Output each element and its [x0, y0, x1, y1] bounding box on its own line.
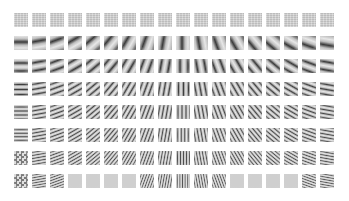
filter-patch [50, 36, 64, 50]
gaussian-envelope [284, 174, 298, 188]
filter-patch [230, 174, 244, 188]
gaussian-envelope [248, 128, 262, 142]
filter-patch [140, 105, 154, 119]
gaussian-envelope [230, 174, 244, 188]
gaussian-envelope [248, 105, 262, 119]
filter-patch [68, 13, 82, 27]
gaussian-envelope [212, 128, 226, 142]
filter-patch [230, 151, 244, 165]
filter-patch [302, 59, 316, 73]
filter-patch [266, 59, 280, 73]
filter-patch [104, 13, 118, 27]
filter-patch [266, 128, 280, 142]
noise-texture [266, 13, 280, 27]
filter-patch [176, 128, 190, 142]
filter-patch [248, 36, 262, 50]
filter-patch [122, 36, 136, 50]
filter-patch [284, 36, 298, 50]
gaussian-envelope [50, 36, 64, 50]
filter-patch [122, 59, 136, 73]
gaussian-envelope [140, 82, 154, 96]
filter-patch [68, 128, 82, 142]
gaussian-envelope [122, 82, 136, 96]
gaussian-envelope [86, 151, 100, 165]
gaussian-envelope [32, 36, 46, 50]
gaussian-envelope [86, 82, 100, 96]
filter-patch [248, 59, 262, 73]
filter-patch [284, 82, 298, 96]
gaussian-envelope [230, 82, 244, 96]
filter-patch [194, 105, 208, 119]
filter-row-5 [14, 105, 334, 119]
filter-patch [68, 36, 82, 50]
gaussian-envelope [176, 174, 190, 188]
filter-patch [68, 82, 82, 96]
gaussian-envelope [104, 128, 118, 142]
gaussian-envelope [32, 151, 46, 165]
filter-patch [68, 151, 82, 165]
filter-patch [302, 13, 316, 27]
gaussian-envelope [68, 82, 82, 96]
gaussian-envelope [104, 151, 118, 165]
filter-patch [248, 128, 262, 142]
filter-patch [122, 105, 136, 119]
gaussian-envelope [230, 128, 244, 142]
gaussian-envelope [122, 128, 136, 142]
filter-patch [86, 151, 100, 165]
filter-patch [302, 36, 316, 50]
gaussian-envelope [32, 128, 46, 142]
gaussian-envelope [158, 59, 172, 73]
filter-patch [266, 36, 280, 50]
filter-patch [86, 82, 100, 96]
filter-patch [140, 59, 154, 73]
gaussian-envelope [50, 82, 64, 96]
gaussian-envelope [140, 105, 154, 119]
filter-patch [302, 128, 316, 142]
filter-patch [320, 105, 334, 119]
filter-patch [194, 13, 208, 27]
filter-patch [140, 174, 154, 188]
filter-patch [194, 59, 208, 73]
gaussian-envelope [266, 151, 280, 165]
filter-patch [176, 13, 190, 27]
filter-patch [50, 59, 64, 73]
gaussian-envelope [158, 105, 172, 119]
filter-patch [32, 105, 46, 119]
gaussian-envelope [32, 105, 46, 119]
gaussian-envelope [32, 174, 46, 188]
noise-texture [140, 13, 154, 27]
filter-patch [212, 151, 226, 165]
gaussian-envelope [14, 151, 28, 165]
gaussian-envelope [14, 82, 28, 96]
gaussian-envelope [122, 36, 136, 50]
filter-patch [32, 59, 46, 73]
gaussian-envelope [122, 59, 136, 73]
gaussian-envelope [50, 174, 64, 188]
filter-patch [266, 174, 280, 188]
gaussian-envelope [68, 36, 82, 50]
filter-patch [302, 105, 316, 119]
gaussian-envelope [14, 36, 28, 50]
gaussian-envelope [68, 174, 82, 188]
gaussian-envelope [266, 36, 280, 50]
gaussian-envelope [320, 36, 334, 50]
filter-patch [50, 151, 64, 165]
filter-patch [32, 128, 46, 142]
filter-patch [68, 174, 82, 188]
filter-patch [230, 82, 244, 96]
gaussian-envelope [14, 128, 28, 142]
filter-patch [248, 105, 262, 119]
gaussian-envelope [176, 105, 190, 119]
filter-patch [14, 36, 28, 50]
gaussian-envelope [230, 36, 244, 50]
gaussian-envelope [14, 105, 28, 119]
filter-patch [212, 174, 226, 188]
filter-patch [32, 151, 46, 165]
gaussian-envelope [248, 36, 262, 50]
gaussian-envelope [266, 128, 280, 142]
noise-texture [176, 13, 190, 27]
noise-texture [212, 13, 226, 27]
filter-patch [194, 128, 208, 142]
gaussian-envelope [302, 59, 316, 73]
gaussian-envelope [86, 59, 100, 73]
